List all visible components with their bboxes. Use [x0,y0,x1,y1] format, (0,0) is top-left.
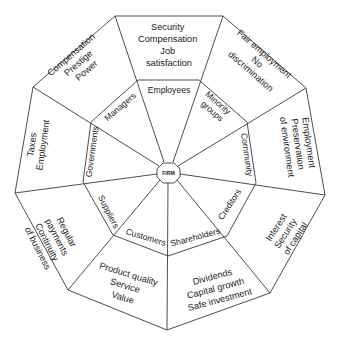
interests-shareholders: Dividends Capital growth Safe investment [181,263,254,313]
segment-community: Employment Preservation of environment C… [239,113,318,178]
stakeholder-creditors: Creditors [216,187,243,222]
interests-governments: Taxes Employment [24,117,52,171]
segment-employees: Security Compensation Job satisfaction E… [138,22,200,95]
segment-customers: Product quality Service Value Customers [91,226,167,311]
segment-governments: Taxes Employment Governments [24,117,101,178]
interests-suppliers: Regular payments Continuity of business [23,210,83,271]
stakeholder-shareholders: Shareholders [169,226,221,249]
stakeholder-employees: Employees [148,85,191,95]
segment-shareholders: Dividends Capital growth Safe investment… [169,226,253,313]
interests-creditors: Interest Security of capital [263,208,310,256]
segment-suppliers: Regular payments Continuity of business … [23,193,122,271]
interests-managers: Compensation Prestige Power [46,30,114,95]
interests-minority-groups: Fair employment No discrimination [221,28,296,99]
stakeholder-diagram: FIRM Security Compensation Job satisfact… [0,0,337,349]
stakeholder-community: Community [239,132,255,177]
stakeholder-minority-groups: Minority groups [197,89,235,125]
stakeholder-customers: Customers [125,226,168,248]
segment-creditors: Interest Security of capital Creditors [216,187,310,257]
interests-employees: Security Compensation Job satisfaction [138,22,200,68]
stakeholder-governments: Governments [83,125,100,177]
firm-hub: FIRM [157,163,180,183]
hub-label: FIRM [162,170,175,176]
segment-minority-groups: Fair employment No discrimination Minori… [197,28,295,126]
